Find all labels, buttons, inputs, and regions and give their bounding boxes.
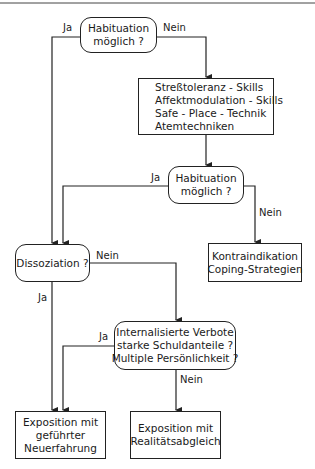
node-text: Internalisierte Verbote (112, 326, 239, 339)
edge-h2-ja (63, 186, 168, 243)
edge-h1-nein (157, 37, 206, 77)
edge-label-diss-ja: Ja (38, 292, 47, 304)
node-text: Exposition mit (130, 422, 220, 435)
process-kontraindikation: Kontraindikation Coping-Strategien (208, 243, 302, 282)
node-text: Dissoziation ? (16, 257, 88, 270)
process-neuerfahrung: Exposition mit geführter Neuerfahrung (15, 411, 106, 459)
node-text: Atemtechniken (155, 120, 283, 133)
edge-h1-ja (52, 37, 80, 243)
edge-label-verbote-ja: Ja (99, 331, 108, 343)
process-realitaetsabgleich: Exposition mit Realitätsabgleich (130, 411, 221, 459)
node-text: Habituation (88, 22, 149, 35)
decision-habituation-1: Habituation möglich ? (80, 17, 157, 53)
node-text: möglich ? (88, 35, 149, 48)
flowchart-connectors (0, 0, 315, 469)
node-text: Affektmodulation - Skills (155, 94, 283, 107)
node-text: möglich ? (175, 185, 236, 198)
edge-label-h2-ja: Ja (151, 172, 160, 184)
node-text: Coping-Strategien (207, 263, 302, 276)
node-text: Safe - Place - Technik (155, 107, 283, 120)
edge-h2-nein (244, 186, 255, 242)
edge-label-diss-nein: Nein (96, 250, 119, 262)
node-text: Kontraindikation (207, 250, 302, 263)
decision-verbote: Internalisierte Verbote starke Schuldant… (114, 321, 236, 370)
edge-label-verbote-nein: Nein (180, 374, 203, 386)
edge-label-h2-nein: Nein (259, 207, 282, 219)
edge-label-h1-nein: Nein (163, 22, 186, 34)
node-text: Exposition mit (23, 416, 98, 429)
node-text: Multiple Persönlichkeit ? (112, 352, 239, 365)
node-text: geführter (23, 429, 98, 442)
edge-label-h1-ja: Ja (63, 22, 72, 34)
edge-verbote-ja (63, 346, 114, 410)
node-text: Streßtoleranz - Skills (155, 81, 283, 94)
node-text: Habituation (175, 172, 236, 185)
node-text: Neuerfahrung (23, 442, 98, 455)
process-skills: Streßtoleranz - Skills Affektmodulation … (138, 78, 274, 135)
node-text: starke Schuldanteile ? (112, 339, 239, 352)
decision-dissoziation: Dissoziation ? (15, 244, 90, 282)
edge-diss-nein (90, 263, 176, 320)
node-text: Realitätsabgleich (130, 435, 220, 448)
decision-habituation-2: Habituation möglich ? (168, 166, 244, 204)
